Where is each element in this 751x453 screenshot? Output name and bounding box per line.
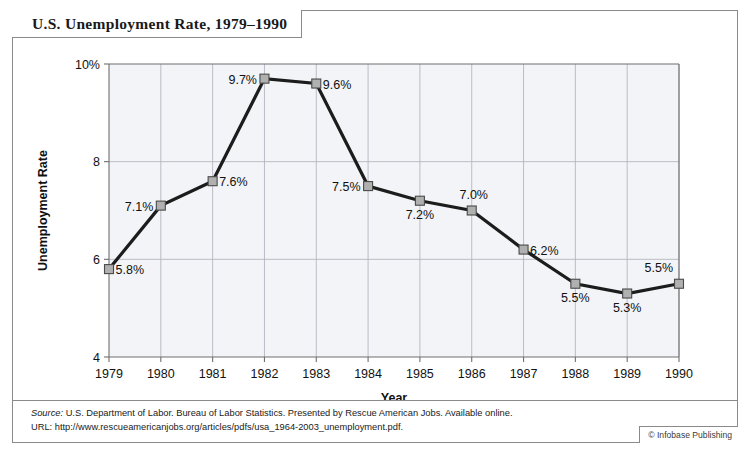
y-axis-title: Unemployment Rate: [36, 150, 50, 271]
data-point-marker: [675, 279, 684, 288]
y-axis-tick-label: 4: [93, 351, 100, 365]
plot-background: [109, 64, 679, 357]
x-axis-tick-label: 1985: [406, 367, 434, 381]
data-point-label: 5.8%: [116, 263, 145, 277]
data-point-label: 9.7%: [228, 73, 257, 87]
x-axis-tick-label: 1980: [147, 367, 175, 381]
x-axis-tick-label: 1981: [199, 367, 227, 381]
x-axis-tick-label: 1990: [665, 367, 693, 381]
data-point-label: 7.2%: [406, 208, 435, 222]
x-axis-tick-label: 1989: [613, 367, 641, 381]
source-url: URL: http://www.rescueamericanjobs.org/a…: [31, 421, 727, 435]
data-point-marker: [467, 206, 476, 215]
figure-frame: U.S. Unemployment Rate, 1979–1990 46810%…: [12, 10, 738, 443]
data-point-label: 7.5%: [332, 180, 361, 194]
x-axis-tick-label: 1984: [354, 367, 382, 381]
credit-text: © Infobase Publishing: [648, 430, 732, 440]
data-point-marker: [623, 289, 632, 298]
data-point-marker: [208, 177, 217, 186]
source-note: Source: U.S. Department of Labor. Bureau…: [31, 407, 727, 434]
data-point-marker: [312, 79, 321, 88]
data-point-label: 5.5%: [561, 291, 590, 305]
x-axis-tick-label: 1986: [458, 367, 486, 381]
y-axis-tick-label: 6: [93, 253, 100, 267]
data-point-label: 5.3%: [613, 301, 642, 315]
data-point-marker: [364, 182, 373, 191]
data-point-marker: [571, 279, 580, 288]
footer-divider: [12, 400, 738, 401]
line-chart: 46810%1979198019811982198319841985198619…: [13, 11, 739, 401]
x-axis-tick-label: 1988: [561, 367, 589, 381]
data-point-label: 7.1%: [125, 200, 154, 214]
x-axis-tick-label: 1983: [302, 367, 330, 381]
data-point-label: 5.5%: [645, 261, 674, 275]
y-axis-tick-label: 8: [93, 155, 100, 169]
source-body: U.S. Department of Labor. Bureau of Labo…: [63, 408, 512, 418]
y-axis-tick-label: 10%: [75, 58, 100, 72]
data-point-label: 6.2%: [530, 244, 559, 258]
source-label: Source:: [31, 408, 63, 418]
credit-box: © Infobase Publishing: [639, 426, 738, 443]
data-point-marker: [156, 201, 165, 210]
chart-plot-area: 46810%1979198019811982198319841985198619…: [13, 11, 739, 444]
data-point-marker: [415, 196, 424, 205]
data-point-label: 7.6%: [219, 175, 248, 189]
x-axis-tick-label: 1982: [251, 367, 279, 381]
data-point-label: 7.0%: [459, 188, 488, 202]
data-point-marker: [519, 245, 528, 254]
data-point-marker: [260, 74, 269, 83]
x-axis-tick-label: 1987: [510, 367, 538, 381]
data-point-marker: [105, 265, 114, 274]
x-axis-tick-label: 1979: [95, 367, 123, 381]
data-point-label: 9.6%: [323, 78, 352, 92]
source-line: Source: U.S. Department of Labor. Bureau…: [31, 407, 727, 421]
